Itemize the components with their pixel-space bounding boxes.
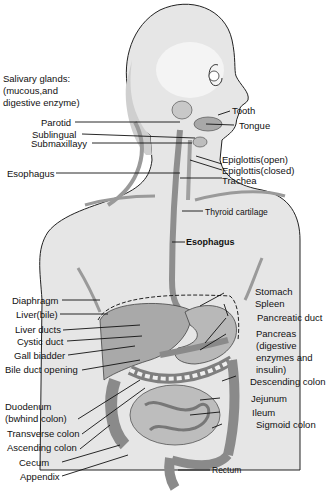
label-ileum: Ileum xyxy=(252,407,275,418)
label-pancreas-note-3: insulin) xyxy=(256,364,286,375)
label-thyroid-cartilage: Thyroid cartilage xyxy=(205,207,268,218)
label-diaphragm: Diaphragm xyxy=(12,295,58,306)
label-liver: Liver(bile) xyxy=(16,309,58,320)
label-rectum: Rectum xyxy=(212,465,241,476)
label-cecum: Cecum xyxy=(19,457,49,468)
label-esophagus-main: Esophagus xyxy=(186,237,235,248)
label-transverse-colon: Transverse colon xyxy=(7,428,80,439)
small-intestine xyxy=(130,385,220,445)
label-pancreas-note-2: enzymes and xyxy=(256,352,313,363)
label-pancreatic-duct: Pancreatic duct xyxy=(257,312,322,323)
trachea-tube xyxy=(188,140,190,200)
label-pancreas-note-1: (digestive xyxy=(256,340,297,351)
salivary-glands-note-line1: Salivary glands: xyxy=(3,73,70,84)
label-parotid: Parotid xyxy=(41,117,71,128)
parotid-gland xyxy=(172,101,192,119)
label-trachea: Trachea xyxy=(222,175,257,186)
label-cystic-duct: Cystic duct xyxy=(17,336,63,347)
label-liver-ducts: Liver ducts xyxy=(15,324,61,335)
label-duodenum: Duodenum xyxy=(5,401,51,412)
label-bile-duct-opening: Bile duct opening xyxy=(5,364,78,375)
head-highlight xyxy=(156,42,224,98)
label-submaxillary: Submaxillayy xyxy=(31,138,87,149)
eye xyxy=(209,71,219,81)
label-esophagus-upper: Esophagus xyxy=(7,168,55,179)
label-stomach: Stomach xyxy=(255,286,293,297)
salivary-glands-note-line2: (mucous,and xyxy=(3,85,58,96)
label-pancreas: Pancreas xyxy=(256,328,296,339)
label-appendix: Appendix xyxy=(20,471,60,482)
rectum-organ xyxy=(169,458,175,488)
label-duodenum-note: (bwhind colon) xyxy=(5,413,67,424)
label-sigmoid-colon: Sigmoid colon xyxy=(256,419,316,430)
label-jejunum: Jejunum xyxy=(251,393,287,404)
label-descending-colon: Descending colon xyxy=(250,376,326,387)
label-tongue: Tongue xyxy=(239,120,270,131)
label-tooth: Tooth xyxy=(232,105,255,116)
submaxillary-gland xyxy=(193,137,207,147)
label-gall-bladder: Gall biadder xyxy=(14,350,65,361)
label-ascending-colon: Ascending colon xyxy=(7,442,77,453)
label-epiglottis-open: Epiglottis(open) xyxy=(222,154,288,165)
salivary-glands-note-line3: digestive enzyme) xyxy=(3,97,80,108)
label-spleen: Spleen xyxy=(255,298,285,309)
